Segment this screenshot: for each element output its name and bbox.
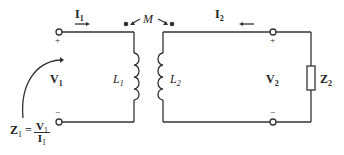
inductor-l2-label: L2 — [170, 73, 181, 85]
dot-secondary — [170, 22, 175, 27]
plus-secondary: + — [270, 36, 275, 45]
load-z2-label: Z2 — [320, 73, 332, 85]
plus-primary: + — [55, 36, 60, 45]
voltage-v1-label: V1 — [50, 73, 63, 85]
transformer-circuit-diagram: I1 M I2 + − + − V1 L1 L2 V2 Z2 Z1 = V1 I… — [0, 0, 344, 155]
input-impedance-formula: Z1 = — [10, 124, 32, 136]
mutual-inductance-label: M — [143, 13, 153, 25]
voltage-v2-label: V2 — [266, 73, 279, 85]
load-z2-box — [307, 66, 315, 90]
inductor-l1-coil — [134, 53, 139, 100]
impedance-fraction: V1 I1 — [34, 121, 50, 144]
dot-primary — [124, 22, 129, 27]
minus-primary: − — [55, 108, 60, 117]
inductor-l1-label: L1 — [113, 73, 124, 85]
current-i2-label: I2 — [215, 8, 224, 20]
inductor-l2-coil — [158, 53, 163, 100]
minus-secondary: − — [270, 108, 275, 117]
current-i1-label: I1 — [75, 8, 84, 20]
